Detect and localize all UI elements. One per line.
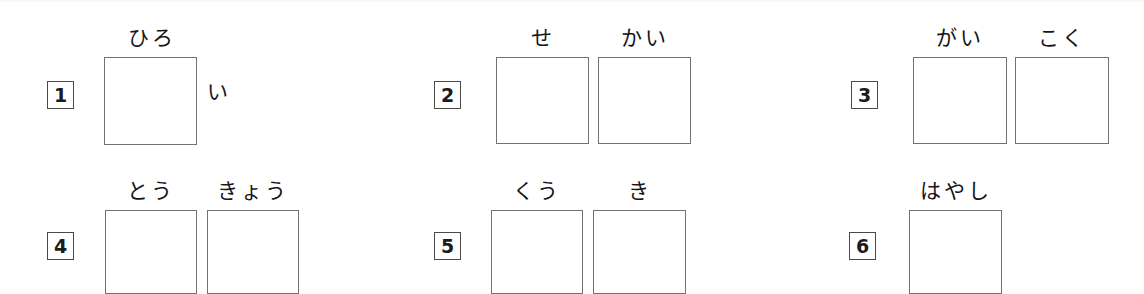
answer-square[interactable] — [598, 57, 691, 144]
question-number-box: 4 — [47, 232, 74, 260]
okurigana-text: い — [207, 82, 228, 103]
scan-edge-shading — [0, 0, 1144, 3]
furigana-reading: せ — [496, 28, 589, 49]
question-number-box: 5 — [434, 232, 461, 260]
answer-square[interactable] — [104, 57, 197, 145]
question-number-box: 6 — [849, 232, 876, 260]
answer-square[interactable] — [207, 210, 299, 294]
answer-square[interactable] — [491, 210, 583, 294]
furigana-reading: くう — [491, 181, 583, 202]
furigana-reading: がい — [913, 28, 1007, 49]
furigana-reading: かい — [598, 28, 691, 49]
answer-square[interactable] — [105, 210, 197, 294]
answer-square[interactable] — [913, 57, 1007, 144]
furigana-reading: きょう — [207, 181, 299, 202]
furigana-reading: とう — [105, 181, 197, 202]
furigana-reading: はやし — [909, 181, 1002, 202]
question-number-box: 2 — [434, 81, 461, 109]
question-number-box: 1 — [47, 81, 74, 109]
answer-square[interactable] — [496, 57, 589, 144]
answer-square[interactable] — [593, 210, 686, 294]
furigana-reading: き — [593, 181, 686, 202]
answer-square[interactable] — [1015, 57, 1109, 144]
answer-square[interactable] — [909, 210, 1002, 294]
furigana-reading: こく — [1015, 28, 1109, 49]
worksheet-page: 1ひろい2せかい3がいこく4とうきょう5くうき6はやし — [0, 0, 1144, 294]
question-number-box: 3 — [851, 81, 878, 109]
furigana-reading: ひろ — [105, 28, 198, 49]
